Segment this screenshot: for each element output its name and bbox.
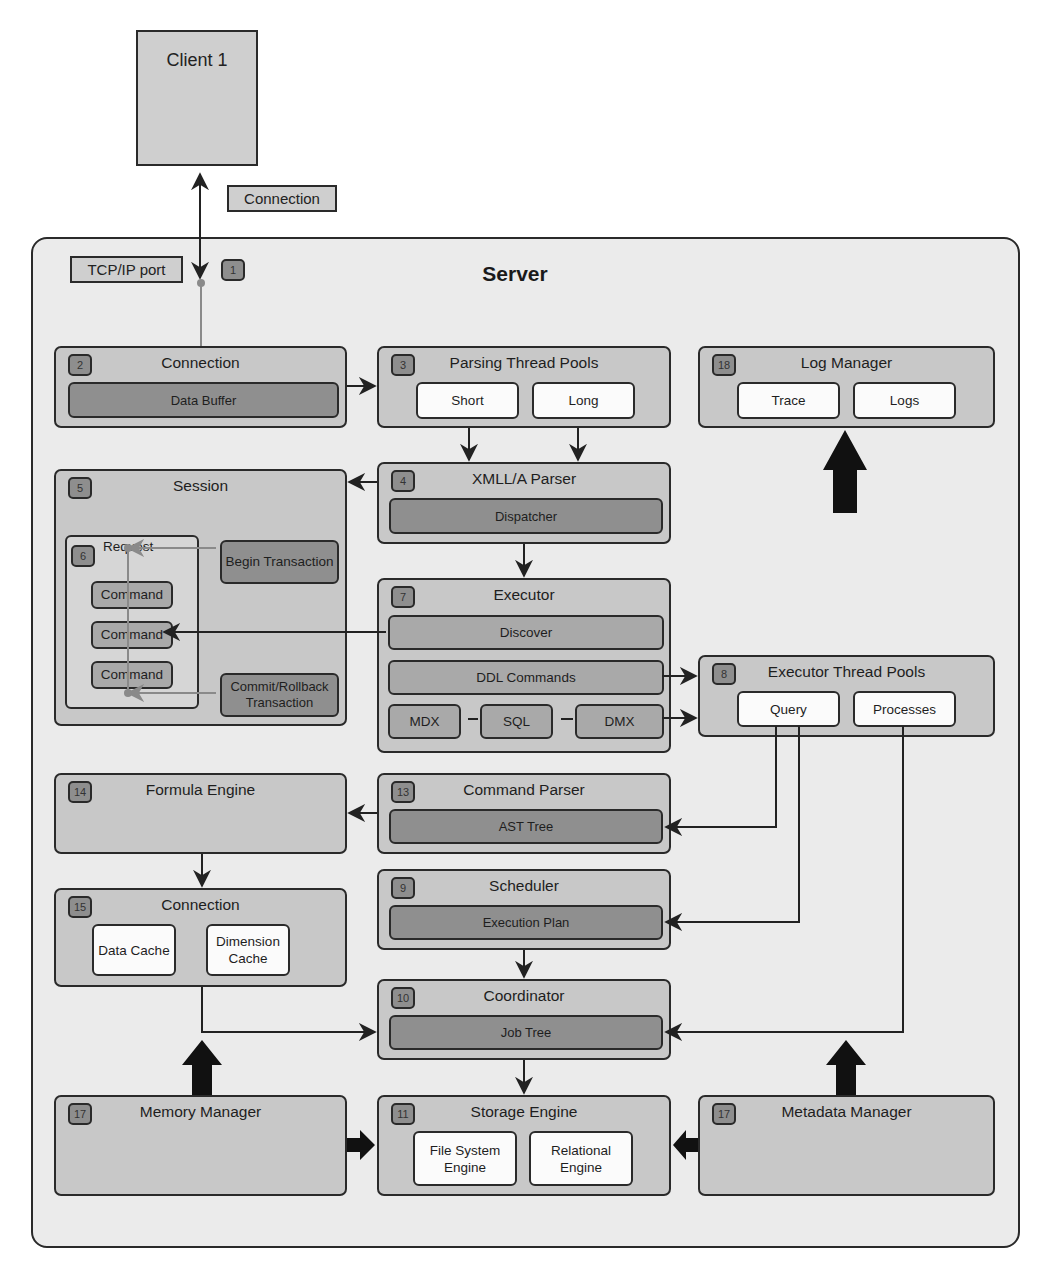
command-1: Command: [91, 581, 173, 609]
tcp-ip-port-label: TCP/IP port: [70, 256, 183, 283]
formula-engine-title: Formula Engine: [56, 781, 345, 799]
memory-manager-component: 17 Memory Manager: [54, 1095, 347, 1196]
command-parser-component: 13 Command Parser AST Tree: [377, 773, 671, 854]
relational-engine: Relational Engine: [529, 1131, 633, 1186]
discover: Discover: [388, 615, 664, 650]
session-component: 5 Session 6 Request Command Command Comm…: [54, 469, 347, 726]
connection-title: Connection: [56, 354, 345, 372]
xmla-parser-component: 4 XMLL/A Parser Dispatcher: [377, 462, 671, 544]
storage-engine-component: 11 Storage Engine File System Engine Rel…: [377, 1095, 671, 1196]
client-label: Client 1: [166, 50, 227, 70]
logs-item: Logs: [853, 382, 956, 419]
xmla-parser-title: XMLL/A Parser: [379, 470, 669, 488]
cache-connection-title: Connection: [56, 896, 345, 914]
log-manager-title: Log Manager: [700, 354, 993, 372]
mdx: MDX: [388, 704, 461, 739]
parsing-thread-pools-component: 3 Parsing Thread Pools Short Long: [377, 346, 671, 428]
short-pool: Short: [416, 382, 519, 419]
ddl-commands: DDL Commands: [388, 660, 664, 695]
file-system-engine: File System Engine: [413, 1131, 517, 1186]
job-tree: Job Tree: [389, 1015, 663, 1050]
query-pool: Query: [737, 691, 840, 727]
executor-thread-pools-title: Executor Thread Pools: [700, 663, 993, 681]
server-title: Server: [430, 262, 600, 286]
data-cache: Data Cache: [92, 924, 176, 976]
dmx: DMX: [575, 704, 664, 739]
command-3: Command: [91, 661, 173, 689]
request-container: 6 Request Command Command Command: [65, 535, 199, 709]
command-parser-title: Command Parser: [379, 781, 669, 799]
client-1-box: Client 1: [136, 30, 258, 166]
log-manager-component: 18 Log Manager Trace Logs: [698, 346, 995, 428]
step-badge-6: 6: [71, 545, 95, 567]
memory-manager-title: Memory Manager: [56, 1103, 345, 1121]
commit-rollback-transaction: Commit/Rollback Transaction: [220, 673, 339, 717]
long-pool: Long: [532, 382, 635, 419]
coordinator-title: Coordinator: [379, 987, 669, 1005]
executor-component: 7 Executor Discover DDL Commands MDX SQL…: [377, 578, 671, 753]
executor-thread-pools-component: 8 Executor Thread Pools Query Processes: [698, 655, 995, 737]
data-buffer: Data Buffer: [68, 382, 339, 418]
connection-component: 2 Connection Data Buffer: [54, 346, 347, 428]
connection-label: Connection: [227, 185, 337, 212]
parsing-thread-pools-title: Parsing Thread Pools: [379, 354, 669, 372]
formula-engine-component: 14 Formula Engine: [54, 773, 347, 854]
processes-pool: Processes: [853, 691, 956, 727]
dispatcher: Dispatcher: [389, 498, 663, 534]
ast-tree: AST Tree: [389, 809, 663, 844]
metadata-manager-title: Metadata Manager: [700, 1103, 993, 1121]
scheduler-component: 9 Scheduler Execution Plan: [377, 869, 671, 950]
request-title: Request: [103, 539, 153, 554]
session-title: Session: [56, 477, 345, 495]
coordinator-component: 10 Coordinator Job Tree: [377, 979, 671, 1060]
executor-title: Executor: [379, 586, 669, 604]
storage-engine-title: Storage Engine: [379, 1103, 669, 1121]
scheduler-title: Scheduler: [379, 877, 669, 895]
trace-item: Trace: [737, 382, 840, 419]
sql: SQL: [480, 704, 553, 739]
cache-connection-component: 15 Connection Data Cache Dimension Cache: [54, 888, 347, 987]
step-badge-1: 1: [221, 259, 245, 281]
begin-transaction: Begin Transaction: [220, 540, 339, 584]
command-2: Command: [91, 621, 173, 649]
dimension-cache: Dimension Cache: [206, 924, 290, 976]
execution-plan: Execution Plan: [389, 905, 663, 940]
metadata-manager-component: 17 Metadata Manager: [698, 1095, 995, 1196]
